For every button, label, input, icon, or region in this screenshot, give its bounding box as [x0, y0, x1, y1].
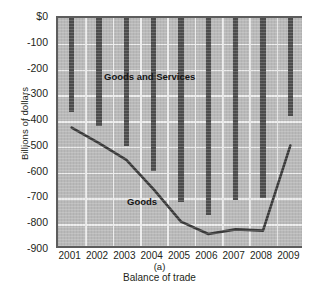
x-axis-tick-label: 2004 — [141, 250, 163, 261]
x-axis-tick-label: 2002 — [86, 250, 108, 261]
y-axis-tick-label: -700 — [0, 190, 48, 202]
y-axis-tick-label: -400 — [0, 113, 48, 125]
x-axis-tick-label: 2001 — [59, 250, 81, 261]
annotation-goods-and-services: Goods and Services — [104, 71, 195, 82]
y-axis-tick-label: -500 — [0, 139, 48, 151]
y-axis-tick-label: $0 — [0, 10, 48, 22]
x-axis-tick-label: 2003 — [113, 250, 135, 261]
line-series-goods — [58, 18, 302, 246]
y-axis-tick-label: -900 — [0, 242, 48, 254]
goods-line-path — [72, 128, 291, 234]
x-axis-tick-label: 2006 — [195, 250, 217, 261]
y-axis-tick-label: -100 — [0, 36, 48, 48]
x-axis-tick-label: 2007 — [223, 250, 245, 261]
x-axis-tick-label: 2009 — [277, 250, 299, 261]
y-axis-tick-labels: $0-100-200-300-400-500-600-700-800-900 — [0, 0, 52, 285]
plot-area: Goods and Services Goods — [56, 16, 302, 248]
chart-figure: Billions of dollars $0-100-200-300-400-5… — [0, 0, 319, 285]
annotation-goods: Goods — [127, 196, 157, 207]
panel-letter: (a) — [0, 261, 319, 272]
x-axis-title: Balance of trade — [0, 272, 319, 283]
y-axis-tick-label: -600 — [0, 165, 48, 177]
y-axis-tick-label: -300 — [0, 87, 48, 99]
x-axis-tick-label: 2005 — [168, 250, 190, 261]
x-axis-tick-label: 2008 — [250, 250, 272, 261]
y-axis-tick-label: -800 — [0, 216, 48, 228]
y-axis-tick-label: -200 — [0, 62, 48, 74]
